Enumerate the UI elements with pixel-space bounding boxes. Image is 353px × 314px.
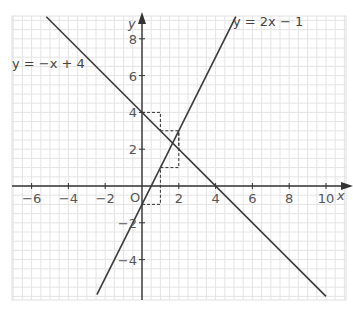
svg-text:10: 10 <box>318 191 335 206</box>
svg-text:4: 4 <box>211 191 219 206</box>
svg-text:−2: −2 <box>96 191 115 206</box>
y-axis-label: y <box>127 16 136 31</box>
svg-text:8: 8 <box>129 32 137 47</box>
svg-text:8: 8 <box>285 191 293 206</box>
svg-text:2: 2 <box>129 142 137 157</box>
x-axis-label: x <box>336 188 345 203</box>
svg-text:−4: −4 <box>118 253 137 268</box>
svg-text:6: 6 <box>248 191 256 206</box>
plot-lines <box>46 17 326 297</box>
equation-label-2: y = 2x − 1 <box>233 14 303 29</box>
equation-label-1: y = −x + 4 <box>12 56 85 71</box>
svg-text:2: 2 <box>175 191 183 206</box>
origin-label: O <box>130 190 140 205</box>
coordinate-plot: −6−4−22468108642−2−4 y = −x + 4 y = 2x −… <box>0 0 353 314</box>
svg-text:−2: −2 <box>118 216 137 231</box>
svg-text:6: 6 <box>129 69 137 84</box>
svg-text:−4: −4 <box>59 191 78 206</box>
svg-text:−6: −6 <box>22 191 41 206</box>
svg-text:4: 4 <box>129 105 137 120</box>
